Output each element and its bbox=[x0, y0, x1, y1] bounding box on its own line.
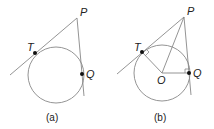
label-o-b: O bbox=[157, 74, 166, 86]
point-q-b bbox=[187, 71, 191, 75]
tangent-pq-a bbox=[77, 18, 84, 96]
caption-a: (a) bbox=[46, 112, 58, 123]
label-p-a: P bbox=[80, 6, 88, 18]
point-q-a bbox=[80, 72, 84, 76]
label-q-a: Q bbox=[86, 68, 95, 80]
tangent-pt-a bbox=[10, 18, 77, 75]
tangent-diagram: P T Q (a) P T O Q (b) bbox=[0, 0, 214, 129]
label-t-a: T bbox=[27, 41, 35, 53]
radius-ot bbox=[142, 52, 162, 73]
panel-b: P T O Q (b) bbox=[117, 5, 202, 123]
tangent-pq-b bbox=[184, 17, 191, 95]
caption-b: (b) bbox=[154, 112, 166, 123]
label-p-b: P bbox=[187, 5, 195, 17]
tangent-pt-b bbox=[117, 17, 184, 74]
panel-a: P T Q (a) bbox=[10, 6, 95, 123]
circle-a bbox=[28, 47, 84, 103]
label-q-b: Q bbox=[193, 67, 202, 79]
